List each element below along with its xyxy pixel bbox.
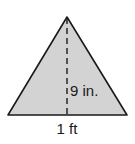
triangle-diagram: 9 in. 1 ft bbox=[0, 0, 135, 144]
height-label: 9 in. bbox=[70, 82, 98, 99]
base-label: 1 ft bbox=[57, 120, 79, 137]
